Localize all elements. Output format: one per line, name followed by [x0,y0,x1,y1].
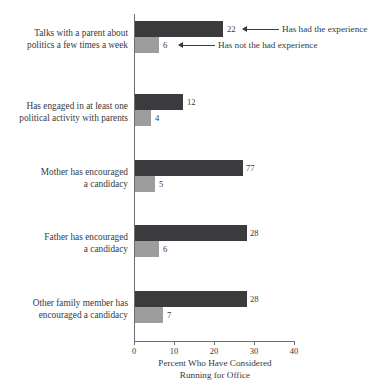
arrow-icon [179,45,215,46]
bar-value-dark: 77 [246,160,255,176]
category-label-line2: politics a few times a week [27,40,128,50]
category-label-line2: encouraged a candidacy [39,310,128,320]
bar-has-had-experience [135,21,223,37]
bar-has-had-experience [135,225,247,241]
x-tick-40 [294,341,295,345]
x-tick-10 [174,341,175,345]
x-axis-title-line1: Percent Who Have Considered [158,358,271,368]
category-label: Talks with a parent about politics a few… [0,28,128,51]
bar-has-not-had-experience [135,241,159,257]
bar-value-light: 7 [167,307,171,323]
callout-label: Has had the experience [282,23,367,35]
x-tick-label-40: 40 [282,346,306,357]
bar-has-not-had-experience [135,110,151,126]
category-label: Has engaged in at least one political ac… [0,101,128,124]
category-label-line2: political activity with parents [19,113,128,123]
category-label: Mother has encouraged a candidacy [0,167,128,190]
bar-value-light: 6 [163,241,167,257]
category-label: Other family member has encouraged a can… [0,298,128,321]
bar-value-dark: 28 [250,225,259,241]
bar-has-not-had-experience [135,37,159,53]
x-tick-label-10: 10 [162,346,186,357]
bar-has-had-experience [135,160,243,176]
x-tick-0 [134,341,135,345]
y-axis-line [134,14,135,341]
bar-has-not-had-experience [135,307,163,323]
category-label: Father has encouraged a candidacy [0,232,128,255]
callout-has-not-had-experience: Has not the had experience [179,39,318,51]
arrow-icon [243,29,279,30]
bar-has-had-experience [135,291,247,307]
x-tick-label-30: 30 [242,346,266,357]
bar-value-light: 4 [155,110,159,126]
x-tick-label-0: 0 [122,346,146,357]
bar-value-light: 5 [159,176,163,192]
bar-chart: Talks with a parent about politics a few… [0,0,370,387]
bar-has-had-experience [135,94,183,110]
x-tick-20 [214,341,215,345]
category-label-line2: a candidacy [84,244,128,254]
category-label-line1: Has engaged in at least one [27,101,128,111]
callout-has-had-experience: Has had the experience [243,23,367,35]
bar-has-not-had-experience [135,176,155,192]
callout-label: Has not the had experience [218,39,318,51]
category-label-line1: Father has encouraged [44,232,128,242]
bar-value-dark: 22 [227,21,236,37]
bar-value-dark: 12 [187,94,196,110]
x-axis-title: Percent Who Have Considered Running for … [134,358,296,381]
category-label-line1: Mother has encouraged [41,167,128,177]
x-tick-label-20: 20 [202,346,226,357]
category-label-line1: Talks with a parent about [34,28,128,38]
x-tick-30 [254,341,255,345]
category-label-line1: Other family member has [33,298,128,308]
category-label-line2: a candidacy [84,179,128,189]
bar-value-dark: 28 [250,291,259,307]
bar-value-light: 6 [163,37,167,53]
x-axis-title-line2: Running for Office [180,370,250,380]
